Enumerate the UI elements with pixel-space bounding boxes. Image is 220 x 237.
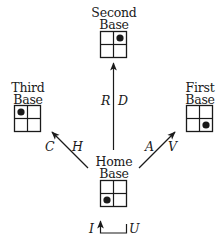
edge-label-v: V xyxy=(168,141,177,153)
second-base-grid xyxy=(101,32,127,58)
third-base-grid xyxy=(15,106,41,132)
first-base-label-line2: Base xyxy=(170,94,220,106)
third-base-label-line2: Base xyxy=(0,94,58,106)
runner-dot-icon xyxy=(17,108,24,115)
runner-dot-icon xyxy=(103,196,110,203)
edge-label-a: A xyxy=(145,141,154,153)
second-base-label-line2: Base xyxy=(84,19,144,31)
home-base-label-line2: Base xyxy=(84,168,144,180)
edge-label-c: C xyxy=(45,141,55,153)
first-base-grid xyxy=(187,106,213,132)
arrow-home-self-loop-icon xyxy=(101,221,127,233)
runner-dot-icon xyxy=(116,34,123,41)
edge-label-d: D xyxy=(118,95,128,107)
edge-label-i: I xyxy=(89,223,94,235)
home-base-grid xyxy=(101,181,127,207)
edge-label-r: R xyxy=(101,95,110,107)
diagram-canvas xyxy=(0,0,220,237)
edge-label-u: U xyxy=(129,223,140,235)
runner-dot-icon xyxy=(202,121,209,128)
edge-label-h: H xyxy=(72,141,83,153)
